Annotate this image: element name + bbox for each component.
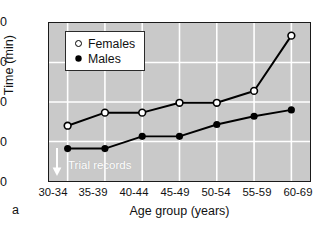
legend-entry-females: Females	[72, 36, 135, 51]
series-line-males	[68, 110, 292, 149]
legend: Females Males	[65, 31, 145, 71]
trial-records-arrow-icon	[50, 148, 70, 178]
data-point-females-30-34	[64, 122, 71, 129]
y-tick-label-40: 40	[0, 176, 7, 188]
y-tick-label-80: 80	[0, 16, 7, 28]
panel-letter: a	[12, 203, 19, 217]
y-tick-label-50: 50	[0, 136, 7, 148]
legend-entry-males: Males	[72, 51, 135, 66]
legend-label-males: Males	[88, 52, 121, 66]
data-point-males-35-39	[101, 145, 108, 152]
filled-circle-icon	[72, 54, 85, 63]
x-tick-label-6: 60-69	[274, 186, 322, 198]
data-point-females-60-69	[288, 32, 295, 39]
x-axis-title: Age group (years)	[48, 204, 311, 218]
open-circle-icon	[72, 39, 85, 48]
data-point-females-55-59	[251, 88, 258, 95]
data-point-females-45-49	[176, 99, 183, 106]
data-point-males-45-49	[176, 133, 183, 140]
data-point-males-50-54	[213, 121, 220, 128]
y-tick-label-60: 60	[0, 96, 7, 108]
legend-label-females: Females	[88, 37, 135, 51]
data-point-males-55-59	[250, 113, 257, 120]
data-point-females-35-39	[102, 109, 109, 116]
data-point-males-40-44	[139, 133, 146, 140]
trial-records-label: Trial records	[68, 159, 131, 171]
data-point-females-50-54	[213, 99, 220, 106]
data-point-males-60-69	[288, 106, 295, 113]
data-point-females-40-44	[139, 109, 146, 116]
figure-panel-a: Time (min) 80 70 60 50 40 Females Males …	[0, 0, 323, 225]
y-tick-label-70: 70	[0, 56, 7, 68]
